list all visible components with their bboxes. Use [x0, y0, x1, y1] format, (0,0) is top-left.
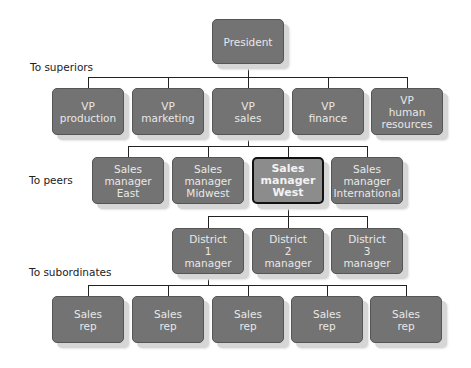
connector — [288, 146, 289, 157]
connector — [128, 146, 129, 157]
node-sales-manager-midwest: Sales manager Midwest — [172, 157, 244, 204]
connector — [367, 146, 368, 157]
connector — [208, 216, 209, 228]
node-president: President — [212, 19, 284, 64]
node-vp-human-resources: VP human resources — [371, 88, 443, 135]
connector — [328, 77, 329, 88]
connector — [367, 216, 368, 228]
connector — [327, 285, 328, 296]
node-district-2-manager: District 2 manager — [252, 228, 324, 274]
connector — [88, 77, 89, 88]
connector — [288, 204, 289, 216]
node-district-3-manager: District 3 manager — [331, 228, 403, 274]
node-sales-rep: Sales rep — [370, 296, 442, 343]
node-vp-marketing: VP marketing — [132, 88, 204, 135]
connector — [128, 146, 368, 147]
label-to-subordinates: To subordinates — [29, 266, 111, 278]
node-sales-rep: Sales rep — [52, 296, 124, 343]
connector — [168, 77, 169, 88]
connector — [288, 216, 289, 228]
node-sales-rep: Sales rep — [132, 296, 204, 343]
connector — [168, 285, 169, 296]
connector — [248, 77, 249, 88]
connector — [406, 285, 407, 296]
node-sales-manager-international: Sales manager International — [331, 157, 403, 204]
connector — [407, 77, 408, 88]
node-vp-sales: VP sales — [212, 88, 284, 135]
connector — [208, 274, 209, 285]
node-sales-manager-west: Sales manager West — [252, 157, 324, 204]
connector — [208, 146, 209, 157]
label-to-superiors: To superiors — [30, 61, 93, 73]
label-to-peers: To peers — [29, 174, 73, 186]
node-sales-rep: Sales rep — [212, 296, 284, 343]
connector — [248, 64, 249, 77]
node-sales-manager-east: Sales manager East — [92, 157, 164, 204]
connector — [88, 285, 89, 296]
node-sales-rep: Sales rep — [291, 296, 363, 343]
connector — [248, 135, 249, 146]
node-district-1-manager: District 1 manager — [172, 228, 244, 274]
node-vp-finance: VP finance — [292, 88, 364, 135]
node-vp-production: VP production — [52, 88, 124, 135]
org-chart: To superiors To peers To subordinates Pr… — [0, 0, 471, 368]
connector — [248, 285, 249, 296]
